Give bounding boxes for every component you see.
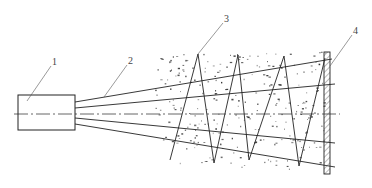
- laser-diagram: 1 2 3 4: [0, 0, 372, 188]
- zigzag-path: [170, 54, 325, 166]
- label-4-target: 4: [353, 25, 358, 36]
- label-3-zigzag: 3: [224, 13, 229, 24]
- label-2-beam: 2: [128, 55, 133, 66]
- label-1-source: 1: [52, 56, 57, 67]
- target-plate: [324, 52, 330, 174]
- particulate-medium: [155, 52, 326, 170]
- beam-fan: [75, 59, 335, 167]
- leader-lines: [27, 23, 352, 101]
- source-box: [18, 95, 75, 130]
